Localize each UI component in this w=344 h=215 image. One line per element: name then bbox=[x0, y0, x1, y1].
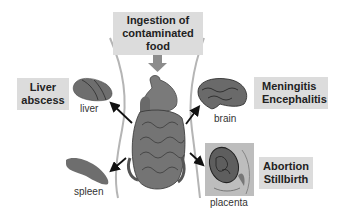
diagram-canvas: Ingestion of contaminated food Liver abs… bbox=[0, 0, 344, 215]
placenta-label: placenta bbox=[210, 197, 248, 208]
arrow-to-liver bbox=[112, 104, 132, 123]
entry-arrow-icon bbox=[148, 54, 167, 72]
meningitis-encephalitis-box: Meningitis Encephalitis bbox=[254, 77, 328, 109]
body-outline-left bbox=[110, 38, 125, 198]
liver-abscess-box: Liver abscess bbox=[17, 78, 69, 110]
body-outline-right bbox=[191, 38, 205, 198]
meningitis-line-1: Meningitis bbox=[262, 80, 316, 93]
liver-abscess-line-2: abscess bbox=[21, 94, 64, 107]
ingestion-label-box: Ingestion of contaminated food bbox=[113, 12, 203, 55]
brain-icon bbox=[198, 79, 247, 109]
placenta-fetus-icon bbox=[205, 143, 254, 196]
spleen-label: spleen bbox=[74, 186, 103, 197]
liver-icon bbox=[73, 78, 112, 100]
brain-label: brain bbox=[214, 113, 236, 124]
liver-label: liver bbox=[80, 103, 98, 114]
ingestion-line-2: contaminated bbox=[122, 27, 194, 40]
intestines-icon bbox=[128, 110, 185, 189]
arrow-to-spleen bbox=[112, 158, 126, 170]
abortion-line-2: Stillbirth bbox=[264, 173, 309, 186]
liver-abscess-line-1: Liver bbox=[30, 81, 56, 94]
abortion-line-1: Abortion bbox=[263, 160, 309, 173]
meningitis-line-2: Encephalitis bbox=[262, 93, 327, 106]
spleen-icon bbox=[66, 158, 108, 185]
stomach-icon bbox=[140, 76, 177, 115]
ingestion-line-3: food bbox=[146, 40, 170, 53]
ingestion-line-1: Ingestion of bbox=[127, 14, 189, 27]
abortion-stillbirth-box: Abortion Stillbirth bbox=[259, 157, 313, 189]
